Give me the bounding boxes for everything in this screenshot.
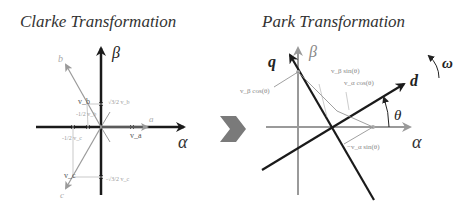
svg-text:v_b: v_b	[78, 97, 90, 106]
svg-text:v_β cos(θ): v_β cos(θ)	[240, 87, 270, 95]
svg-text:c: c	[60, 190, 64, 200]
park-panel: Park Transformation	[234, 0, 468, 206]
svg-text:β: β	[308, 43, 317, 61]
svg-text:-1/2 v_b: -1/2 v_b	[76, 111, 96, 117]
phase-b-axis	[66, 65, 101, 127]
svg-text:v_α cos(θ): v_α cos(θ)	[344, 79, 374, 87]
svg-text:α: α	[412, 132, 422, 152]
svg-text:v_c: v_c	[64, 171, 76, 180]
clarke-panel: Clarke Transformation	[0, 0, 200, 206]
svg-text:a: a	[149, 114, 154, 124]
svg-text:v_a: v_a	[130, 131, 142, 140]
svg-text:-1/2 v_c: -1/2 v_c	[62, 135, 82, 141]
svg-text:b: b	[58, 53, 63, 64]
park-diagram: β α d q θ ω v_β sin(θ) v_α cos(θ) v_β co…	[234, 0, 468, 206]
svg-text:β: β	[111, 44, 120, 62]
clarke-diagram: β α b a c v_b √3/2 v_b -1/2 v_b v_a -1/2…	[0, 0, 200, 206]
svg-text:-√3/2 v_c: -√3/2 v_c	[106, 176, 129, 182]
svg-text:q: q	[268, 53, 276, 71]
svg-text:d: d	[410, 72, 419, 89]
svg-text:−v_α sin(θ): −v_α sin(θ)	[347, 143, 380, 151]
svg-text:θ: θ	[394, 107, 402, 123]
svg-text:α: α	[178, 132, 188, 152]
svg-text:ω: ω	[442, 55, 453, 71]
svg-text:v_β sin(θ): v_β sin(θ)	[331, 67, 360, 75]
svg-text:√3/2 v_b: √3/2 v_b	[108, 99, 129, 105]
